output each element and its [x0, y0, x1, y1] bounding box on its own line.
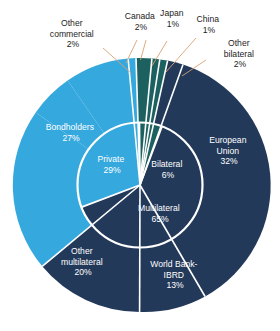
- callout-canada: Canada 2%: [125, 11, 158, 32]
- callout-other-bilateral: Other bilateral 2%: [224, 38, 257, 69]
- donut-chart-svg: Bondholders 27% European Union 32% World…: [0, 0, 280, 331]
- cropped-title-text: [0, 0, 280, 4]
- callout-china: China 1%: [197, 14, 222, 35]
- sep-inner-private-bilateral: [139, 123, 140, 186]
- donut-chart-figure: Bondholders 27% European Union 32% World…: [0, 0, 280, 331]
- callout-other-commercial: Other commercial 2%: [50, 18, 96, 49]
- callout-japan: Japan 1%: [160, 8, 186, 29]
